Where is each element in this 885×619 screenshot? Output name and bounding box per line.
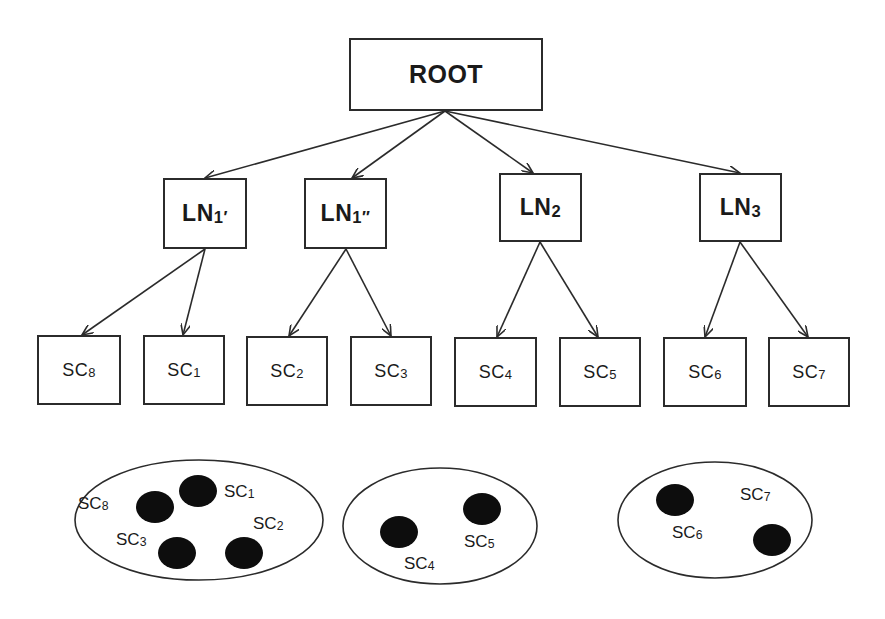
- cluster-label-sc4: SC4: [404, 554, 434, 574]
- label-base: SC: [78, 494, 102, 513]
- leaf-node-sc3-label: SC3: [374, 361, 408, 382]
- label-base: SC: [224, 482, 248, 501]
- leaf-node-sc7-label: SC7: [792, 362, 826, 383]
- label-subscript: 7: [764, 490, 771, 504]
- level1-node-ln3-label: LN3: [720, 194, 761, 221]
- label-subscript: 3: [400, 366, 408, 381]
- arrow-ln2-to-sc4: [497, 242, 540, 337]
- label-base: ROOT: [409, 60, 483, 88]
- arrow-ln1pp-to-sc3: [346, 249, 391, 336]
- leaf-node-sc1: SC1: [143, 335, 225, 405]
- sensor-dot-sc7: [753, 524, 791, 556]
- label-subscript: 2: [551, 202, 561, 221]
- sensor-dot-sc5: [463, 493, 501, 525]
- arrow-ln2-to-sc5: [540, 242, 598, 337]
- label-subscript: 1: [248, 487, 255, 501]
- cluster-label-sc6: SC6: [672, 523, 702, 543]
- sensor-dot-sc1: [179, 475, 217, 507]
- arrow-root-to-ln1p: [205, 111, 445, 178]
- leaf-node-sc2: SC2: [246, 336, 328, 406]
- label-subscript: 5: [488, 537, 495, 551]
- label-base: SC: [116, 530, 140, 549]
- label-base: SC: [464, 532, 488, 551]
- label-base: SC: [374, 361, 400, 381]
- sensor-dot-sc2: [225, 537, 263, 569]
- arrow-ln3-to-sc6: [705, 242, 740, 337]
- leaf-node-sc7: SC7: [768, 337, 850, 407]
- label-subscript: 2: [277, 519, 284, 533]
- sensor-dot-sc4: [380, 516, 418, 548]
- label-base: SC: [62, 360, 88, 380]
- cluster-2-ellipse: [343, 468, 537, 584]
- leaf-node-sc1-label: SC1: [167, 360, 201, 381]
- leaf-node-sc3: SC3: [350, 336, 432, 406]
- label-subscript: 3: [751, 202, 761, 221]
- root-node: ROOT: [349, 38, 543, 111]
- sensor-dot-sc3: [158, 537, 196, 569]
- label-subscript: 4: [428, 559, 435, 573]
- cluster-label-sc7: SC7: [740, 485, 770, 505]
- root-node-label: ROOT: [409, 60, 483, 89]
- label-subscript: 1″: [352, 208, 370, 227]
- label-base: LN: [520, 194, 552, 220]
- label-subscript: 6: [696, 528, 703, 542]
- cluster-label-sc5: SC5: [464, 532, 494, 552]
- label-subscript: 1: [193, 365, 201, 380]
- tree-diagram: ROOTLN1′LN1″LN2LN3SC8SC1SC2SC3SC4SC5SC6S…: [0, 0, 885, 619]
- leaf-node-sc2-label: SC2: [270, 361, 304, 382]
- label-subscript: 1′: [214, 208, 228, 227]
- label-subscript: 8: [102, 499, 109, 513]
- label-subscript: 5: [609, 367, 617, 382]
- leaf-node-sc4: SC4: [454, 337, 537, 407]
- label-base: LN: [182, 200, 214, 226]
- label-base: SC: [479, 362, 505, 382]
- cluster-label-sc3: SC3: [116, 530, 146, 550]
- level1-node-ln3: LN3: [699, 173, 782, 242]
- level1-node-ln1pp: LN1″: [304, 178, 387, 249]
- label-base: SC: [167, 360, 193, 380]
- label-base: LN: [720, 194, 752, 220]
- leaf-node-sc8-label: SC8: [62, 360, 96, 381]
- label-base: SC: [740, 485, 764, 504]
- label-subscript: 2: [296, 366, 304, 381]
- label-base: SC: [404, 554, 428, 573]
- label-subscript: 4: [505, 367, 513, 382]
- level1-node-ln1pp-label: LN1″: [321, 200, 371, 227]
- arrow-ln3-to-sc7: [740, 242, 808, 337]
- sensor-dot-sc8: [136, 491, 174, 523]
- cluster-label-sc2: SC2: [253, 514, 283, 534]
- level1-node-ln2: LN2: [499, 173, 582, 242]
- label-base: SC: [270, 361, 296, 381]
- label-subscript: 8: [88, 365, 96, 380]
- label-base: SC: [583, 362, 609, 382]
- label-base: SC: [672, 523, 696, 542]
- label-subscript: 3: [140, 535, 147, 549]
- label-subscript: 7: [818, 367, 826, 382]
- label-base: SC: [253, 514, 277, 533]
- leaf-node-sc5-label: SC5: [583, 362, 617, 383]
- sensor-dot-sc6: [656, 484, 694, 516]
- leaf-node-sc6-label: SC6: [688, 362, 722, 383]
- leaf-node-sc8: SC8: [37, 335, 121, 405]
- label-base: SC: [792, 362, 818, 382]
- level1-node-ln1p: LN1′: [163, 178, 247, 249]
- cluster-label-sc8: SC8: [78, 494, 108, 514]
- label-base: SC: [688, 362, 714, 382]
- cluster-3-ellipse: [618, 462, 812, 578]
- leaf-node-sc5: SC5: [559, 337, 641, 407]
- level1-node-ln1p-label: LN1′: [182, 200, 228, 227]
- leaf-node-sc6: SC6: [663, 337, 747, 407]
- label-base: LN: [321, 200, 353, 226]
- leaf-node-sc4-label: SC4: [479, 362, 513, 383]
- arrow-ln1pp-to-sc2: [289, 249, 346, 336]
- arrow-root-to-ln1pp: [352, 111, 445, 178]
- label-subscript: 6: [714, 367, 722, 382]
- level1-node-ln2-label: LN2: [520, 194, 561, 221]
- cluster-label-sc1: SC1: [224, 482, 254, 502]
- cluster-group: [75, 460, 812, 584]
